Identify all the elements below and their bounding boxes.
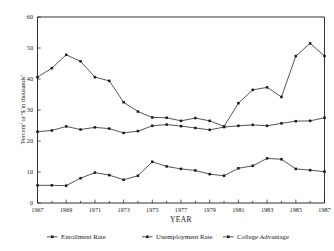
series-marker: [208, 173, 211, 176]
legend-item[interactable]: College Advantage: [223, 233, 289, 240]
y-tick-label: 20: [27, 137, 33, 144]
series-marker: [295, 55, 298, 58]
series-marker: [79, 128, 82, 131]
y-tick-label: 30: [27, 106, 33, 113]
y-tick-label: 60: [27, 13, 33, 20]
series-marker: [280, 96, 283, 99]
chart-legend: Enrollment RateUnemployment RateCollege …: [47, 233, 289, 240]
legend-swatch-marker: [146, 236, 149, 239]
series-marker: [65, 125, 68, 128]
series-marker: [223, 125, 226, 128]
x-tick-label: 1975: [146, 206, 158, 213]
series-marker: [252, 124, 255, 127]
y-tick-label: 40: [27, 75, 33, 82]
series-marker: [108, 127, 111, 130]
legend-label: Enrollment Rate: [61, 233, 106, 240]
legend-label: Unemployment Rate: [156, 233, 212, 240]
axis-labels-group: 0102030405060196719691971197319751977197…: [19, 13, 331, 223]
series-line: [38, 158, 325, 185]
series-marker: [36, 184, 39, 187]
series-marker: [51, 184, 54, 187]
series-marker: [237, 102, 240, 105]
y-tick-label: 50: [27, 44, 33, 51]
series-marker: [108, 174, 111, 177]
series-marker: [65, 54, 68, 57]
legend-swatch-marker: [227, 236, 230, 239]
legend-swatch-marker: [51, 236, 54, 239]
series-marker: [194, 117, 197, 120]
series-marker: [122, 132, 125, 135]
x-tick-label: 1971: [89, 206, 101, 213]
series-marker: [252, 89, 255, 92]
series-marker: [180, 120, 183, 123]
legend-label: College Advantage: [237, 233, 289, 240]
series-marker: [137, 174, 140, 177]
x-tick-label: 1977: [175, 206, 187, 213]
series-group: [36, 42, 326, 187]
x-axis-title: YEAR: [170, 215, 193, 224]
series-marker: [323, 170, 326, 173]
series-marker: [323, 117, 326, 120]
series-marker: [266, 125, 269, 128]
series-marker: [94, 126, 97, 129]
series-marker: [165, 123, 168, 126]
series-marker: [295, 168, 298, 171]
series-marker: [252, 165, 255, 168]
series-marker: [280, 122, 283, 125]
series-marker: [194, 169, 197, 172]
series-marker: [295, 120, 298, 123]
legend-item[interactable]: Unemployment Rate: [142, 233, 212, 240]
x-tick-label: 1981: [232, 206, 244, 213]
x-tick-label: 1979: [204, 206, 216, 213]
x-tick-label: 1983: [261, 206, 273, 213]
series-marker: [65, 184, 68, 187]
axis-frame: [38, 17, 325, 203]
series-marker: [180, 125, 183, 128]
series-marker: [94, 171, 97, 174]
series-marker: [266, 86, 269, 89]
data-series: [36, 117, 326, 135]
series-marker: [208, 120, 211, 123]
series-marker: [137, 110, 140, 113]
series-marker: [79, 177, 82, 180]
series-marker: [36, 130, 39, 133]
series-marker: [280, 158, 283, 161]
data-series: [36, 42, 326, 128]
series-marker: [323, 55, 326, 58]
series-marker: [165, 117, 168, 120]
series-marker: [194, 127, 197, 130]
series-marker: [165, 165, 168, 168]
series-marker: [137, 130, 140, 133]
series-marker: [94, 76, 97, 79]
series-marker: [180, 168, 183, 171]
series-marker: [122, 179, 125, 182]
series-marker: [309, 120, 312, 123]
series-marker: [122, 101, 125, 104]
series-marker: [309, 169, 312, 172]
y-axis-title: 'Percent' or '$ in thousands': [19, 75, 26, 144]
series-marker: [151, 161, 154, 164]
x-tick-label: 1969: [60, 206, 72, 213]
series-marker: [237, 167, 240, 170]
line-chart: 0102030405060196719691971197319751977197…: [0, 0, 334, 251]
series-marker: [79, 60, 82, 63]
legend-item[interactable]: Enrollment Rate: [47, 233, 106, 240]
chart-figure: 0102030405060196719691971197319751977197…: [0, 0, 334, 251]
series-marker: [36, 76, 39, 79]
series-marker: [151, 116, 154, 119]
x-tick-label: 1985: [290, 206, 302, 213]
series-marker: [223, 174, 226, 177]
series-line: [38, 43, 325, 126]
x-tick-label: 1973: [117, 206, 129, 213]
series-marker: [108, 80, 111, 83]
series-marker: [51, 129, 54, 132]
axes-group: [38, 17, 325, 203]
series-marker: [266, 157, 269, 160]
x-tick-label: 1967: [31, 206, 43, 213]
series-marker: [208, 129, 211, 132]
series-marker: [51, 67, 54, 70]
x-tick-label: 1987: [318, 206, 330, 213]
data-series: [36, 157, 326, 187]
series-marker: [237, 125, 240, 128]
series-marker: [309, 42, 312, 45]
